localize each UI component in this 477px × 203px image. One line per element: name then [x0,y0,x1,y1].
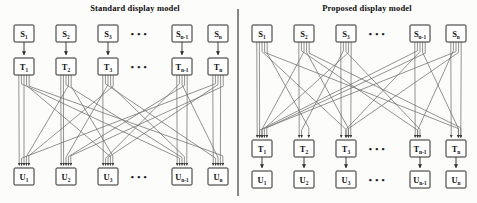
node-proposed-U4[interactable]: Un-1 [410,171,430,188]
node-subscript: 1 [263,149,266,155]
node-subscript: n-1 [181,34,189,40]
node-standard-U3[interactable]: U3 [98,168,118,185]
node-subscript: n [220,177,223,183]
node-proposed-U5[interactable]: Un [446,171,466,188]
node-subscript: 2 [305,149,308,155]
node-proposed-T3[interactable]: T3 [336,140,356,157]
node-standard-U5[interactable]: Un [208,168,228,185]
wire-S2-to-T5 [309,42,461,138]
node-subscript: n [219,34,222,40]
node-subscript: 1 [25,67,28,73]
node-subscript: 1 [263,34,266,40]
ellipsis-proposed-U: • • • [369,175,385,185]
node-subscript: n [457,149,460,155]
node-subscript: 3 [348,180,351,186]
node-subscript: 1 [25,34,28,40]
node-subscript: 2 [67,67,70,73]
node-subscript: n-1 [419,149,427,155]
node-standard-U2[interactable]: U2 [56,168,76,185]
ellipsis-standard-S: • • • [131,29,147,39]
wire-T3-to-U5 [105,75,215,166]
node-standard-S1[interactable]: S1 [14,25,34,42]
node-proposed-S1[interactable]: S1 [252,25,272,42]
node-proposed-S3[interactable]: S3 [336,25,356,42]
node-subscript: 1 [264,180,267,186]
node-subscript: 3 [109,67,112,73]
node-standard-S4[interactable]: Sn-1 [172,25,192,42]
node-subscript: 2 [67,34,70,40]
wire-T2-to-U3 [71,75,113,166]
wire-T1-to-U3 [27,75,111,166]
node-subscript: 3 [110,177,113,183]
wire-S5-to-T3 [348,42,458,138]
node-subscript: n-1 [181,67,189,73]
node-proposed-U3[interactable]: U3 [336,171,356,188]
node-proposed-T2[interactable]: T2 [294,140,314,157]
node-subscript: n-1 [419,34,427,40]
node-subscript: n-1 [419,180,427,186]
wire-layer [19,42,461,168]
node-standard-T5[interactable]: Tn [208,58,228,75]
ellipsis-standard-U: • • • [131,172,147,182]
node-subscript: n [458,180,461,186]
node-subscript: 3 [347,149,350,155]
ellipsis-standard-T: • • • [131,62,147,72]
wire-T3-to-U1 [29,75,113,166]
node-subscript: n [219,67,222,73]
wire-S3-to-T2 [302,42,344,138]
wire-S2-to-T1 [262,42,304,138]
wire-S4-to-T1 [267,42,425,138]
node-proposed-U2[interactable]: U2 [294,171,314,188]
node-proposed-U1[interactable]: U1 [252,171,272,188]
node-standard-T4[interactable]: Tn-1 [172,58,192,75]
diagram-svg: S1S2S3Sn-1Sn• • •T1T2T3Tn-1Tn• • •U1U2U3… [0,0,477,203]
node-standard-T1[interactable]: T1 [14,58,34,75]
node-proposed-S4[interactable]: Sn-1 [410,25,430,42]
node-subscript: 2 [305,34,308,40]
node-proposed-T5[interactable]: Tn [446,140,466,157]
wire-T5-to-U1 [22,75,216,166]
node-standard-S5[interactable]: Sn [208,25,228,42]
wire-T1-to-U5 [29,75,223,166]
node-proposed-S5[interactable]: Sn [446,25,466,42]
node-proposed-S2[interactable]: S2 [294,25,314,42]
wire-S2-to-T3 [307,42,349,138]
node-subscript: 2 [306,180,309,186]
node-standard-U1[interactable]: U1 [14,168,34,185]
node-standard-T3[interactable]: T3 [98,58,118,75]
node-standard-S2[interactable]: S2 [56,25,76,42]
wire-S5-to-T4 [418,42,454,138]
node-proposed-T4[interactable]: Tn-1 [410,140,430,157]
ellipsis-proposed-S: • • • [369,29,385,39]
ellipsis-proposed-T: • • • [369,144,385,154]
figure-canvas: Standard display model Proposed display … [0,0,477,203]
wire-T1-to-U4 [21,75,179,166]
node-subscript: 1 [26,177,29,183]
node-subscript: 2 [68,177,71,183]
node-standard-S3[interactable]: S3 [98,25,118,42]
node-subscript: 3 [347,34,350,40]
node-subscript: n [457,34,460,40]
wire-T2-to-U1 [26,75,68,166]
node-subscript: n-1 [181,177,189,183]
node-proposed-T1[interactable]: T1 [252,140,272,157]
node-standard-U4[interactable]: Un-1 [172,168,192,185]
node-standard-T2[interactable]: T2 [56,58,76,75]
node-subscript: 3 [109,34,112,40]
